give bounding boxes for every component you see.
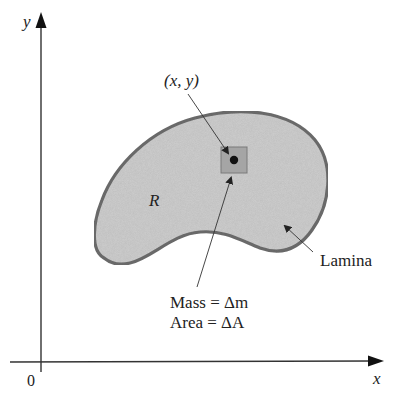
lamina-diagram: y x 0 R (x, y) Lamina Mass = Δm Area = Δ… (0, 0, 394, 413)
point-label: (x, y) (164, 71, 199, 90)
region-label: R (148, 191, 160, 210)
y-axis-label: y (21, 12, 31, 31)
x-axis-arrow-icon (368, 356, 384, 367)
x-axis (10, 356, 384, 367)
area-label: Area = ΔA (170, 313, 245, 332)
mass-label: Mass = Δm (170, 293, 248, 312)
lamina-label: Lamina (320, 251, 372, 270)
y-axis (36, 12, 47, 372)
x-axis-label: x (372, 369, 381, 388)
origin-label: 0 (27, 372, 35, 389)
y-axis-arrow-icon (36, 12, 47, 28)
point-marker (230, 156, 238, 164)
